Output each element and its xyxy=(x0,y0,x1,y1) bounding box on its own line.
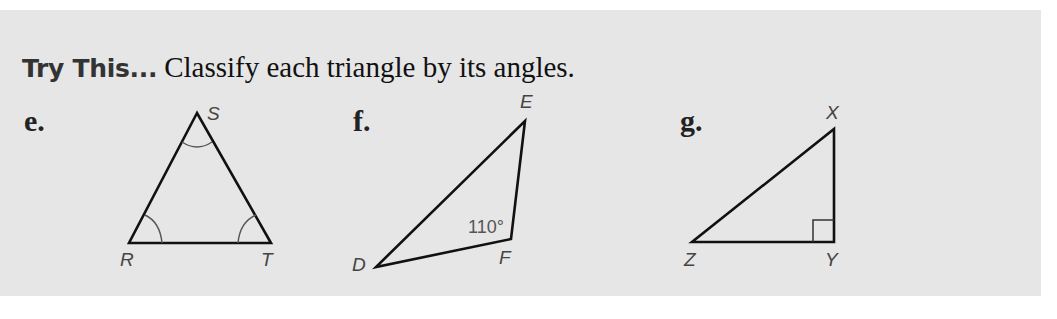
vertex-label-t: T xyxy=(261,249,274,270)
vertex-label-r: R xyxy=(120,249,134,270)
vertex-label-s: S xyxy=(207,103,220,124)
angle-measure-f: 110° xyxy=(468,217,504,237)
angle-arc-s xyxy=(182,142,212,147)
vertex-label-y: Y xyxy=(825,249,839,270)
triangle-rst: S R T xyxy=(120,103,274,270)
vertex-label-f: F xyxy=(499,247,512,268)
angle-arc-t xyxy=(238,215,256,243)
vertex-label-e: E xyxy=(520,91,533,112)
angle-arc-r xyxy=(145,215,162,243)
triangle-figures: S R T E F D 110° X Y Z xyxy=(0,0,1057,319)
vertex-label-x: X xyxy=(825,102,840,123)
right-angle-mark-y xyxy=(813,220,834,242)
vertex-label-d: D xyxy=(352,254,366,275)
triangle-xyz: X Y Z xyxy=(683,102,840,270)
triangle-def: E F D 110° xyxy=(352,91,533,275)
vertex-label-z: Z xyxy=(683,249,697,270)
